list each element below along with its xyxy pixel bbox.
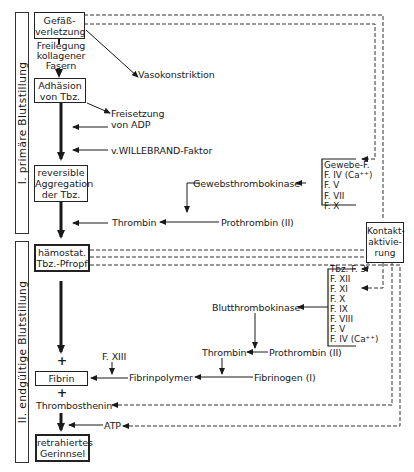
phase-final-label: II. endgültige Blutstillung	[15, 241, 29, 463]
text-thrombin-1: Thrombin	[112, 217, 156, 228]
text-thrombin-2: Thrombin	[202, 347, 246, 358]
text-fibrinogen: Fibrinogen (I)	[254, 372, 316, 383]
box-fibrin: Fibrin	[35, 371, 88, 386]
plus-sign-1: +	[57, 356, 67, 367]
box-kontaktaktivierung: Kontakt- aktivie- rung	[366, 222, 404, 263]
factor-item: F. XI	[330, 284, 378, 294]
dashed-gefaess-inner	[84, 24, 375, 159]
box-aggregation: reversible Aggregation der Tbz.	[34, 165, 88, 202]
factor-item: Tbz. F. 3	[330, 264, 378, 274]
factor-item: Gewebe-F.	[324, 160, 372, 170]
text-thrombosthenin: Thrombosthenin	[36, 400, 112, 411]
text-blutthrombokinase: Blutthrombokinase	[212, 302, 300, 313]
factor-item: F. X	[330, 294, 378, 304]
text-freilegung: Freilegung kollagener Fasern	[36, 41, 86, 71]
factor-item: F. IV (Ca⁺⁺)	[324, 170, 372, 180]
text-freisetzung-adp: Freisetzung von ADP	[111, 108, 164, 130]
text-gewebsthrombokinase: Gewebsthrombokinase	[193, 178, 300, 189]
factor-item: F. IX	[330, 304, 378, 314]
factor-item: F. V	[330, 324, 378, 334]
phase-primary-label: I. primäre Blutstillung	[15, 12, 29, 234]
arrow-vasokonstriktion	[86, 30, 138, 77]
text-prothrombin-1: Prothrombin (II)	[221, 217, 294, 228]
extrinsic-factor-list: Gewebe-F. F. IV (Ca⁺⁺) F. V F. VII F. X	[324, 160, 372, 211]
arrow-freisetzung	[87, 103, 110, 113]
plus-sign-2: +	[57, 388, 67, 399]
text-factor-xiii: F. XIII	[102, 351, 126, 362]
text-willebrand-faktor: v.WILLEBRAND-Faktor	[111, 145, 212, 156]
box-gefaessverletzung: Gefäß- verletzung	[34, 12, 85, 39]
box-retrahiertes-gerinnsel: retrahiertes Gerinnsel	[35, 434, 90, 462]
factor-item: F. V	[324, 180, 372, 190]
box-adhaesion: Adhäsion von Tbz.	[34, 78, 86, 103]
text-vasokonstriktion: Vasokonstriktion	[138, 69, 215, 80]
box-pfropf: hämostat. Tbz.-Pfropf	[34, 244, 90, 272]
text-atp: ATP	[104, 420, 121, 431]
factor-item: F. IV (Ca⁺⁺)	[330, 334, 378, 344]
dashed-pfropf-tbzf3	[90, 250, 368, 269]
factor-item: F. VIII	[330, 314, 378, 324]
text-prothrombin-2: Prothrombin (II)	[269, 347, 342, 358]
intrinsic-factor-list: Tbz. F. 3 F. XII F. XI F. X F. IX F. VII…	[330, 264, 378, 344]
factor-item: F. XII	[330, 274, 378, 284]
text-fibrinpolymer: Fibrinpolymer	[129, 372, 193, 383]
factor-item: F. X	[324, 201, 372, 211]
factor-item: F. VII	[324, 191, 372, 201]
